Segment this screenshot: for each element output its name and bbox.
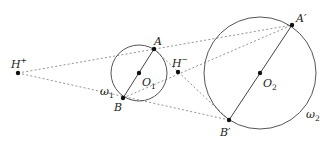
point-o1	[137, 71, 141, 75]
label-omega2: ω2	[306, 108, 320, 123]
point-b	[121, 96, 125, 100]
point-b-prime	[227, 118, 231, 122]
label-o2: O2	[263, 77, 277, 92]
label-omega1: ω1	[100, 85, 114, 100]
homothety-diagram: H+ H− A B O1 ω1 A′ B′ O2 ω2	[0, 0, 331, 150]
label-b: B	[113, 101, 122, 114]
label-b-prime: B′	[219, 126, 231, 139]
label-a: A	[153, 35, 162, 48]
label-a-prime: A′	[295, 12, 307, 25]
point-h-plus	[16, 71, 20, 75]
label-h-plus: H+	[10, 56, 27, 71]
point-a-prime	[290, 23, 294, 27]
diagram-canvas: H+ H− A B O1 ω1 A′ B′ O2 ω2	[0, 0, 331, 150]
point-o2	[258, 71, 262, 75]
point-h-minus	[176, 70, 180, 74]
label-h-minus: H−	[171, 55, 188, 70]
label-o1: O1	[142, 76, 156, 91]
